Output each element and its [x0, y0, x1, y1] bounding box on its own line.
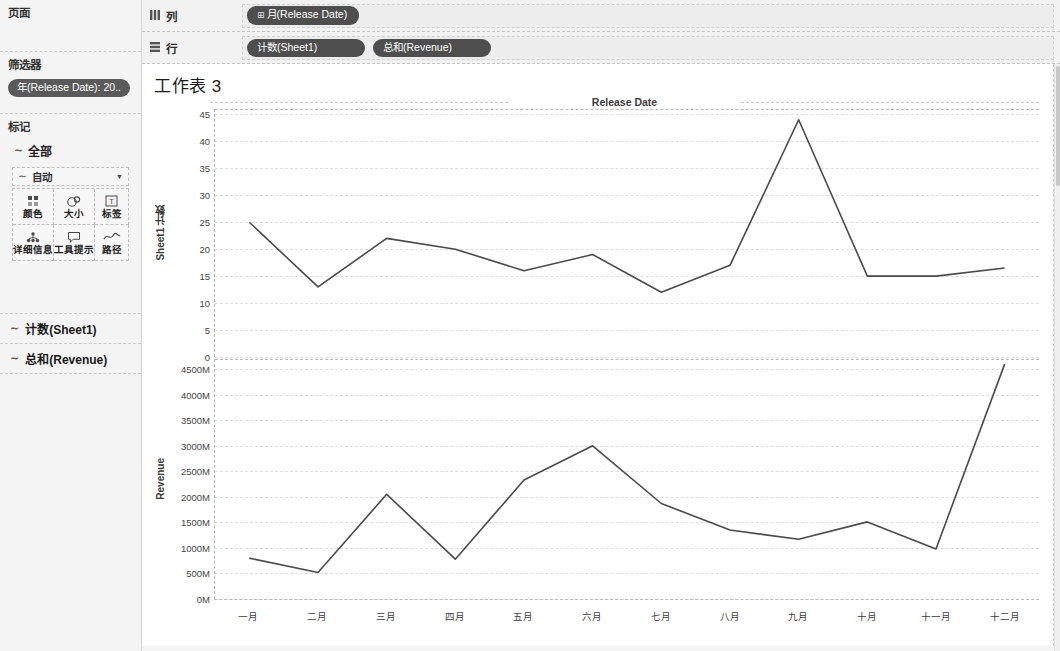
mark-type-dropdown[interactable]: ∼ 自动 ▼: [12, 167, 129, 186]
y-axis-title-count: Sheet1 计数: [152, 109, 168, 357]
line-series[interactable]: [215, 359, 1039, 599]
pages-title: 页面: [8, 6, 133, 21]
y-tick-label: 30: [199, 190, 210, 201]
y-tick-label: 2000M: [181, 491, 210, 502]
y-tick-label: 20: [199, 244, 210, 255]
marks-all-row[interactable]: ∼ 全部: [8, 135, 133, 165]
marks-tooltip-button[interactable]: 工具提示: [54, 225, 95, 261]
rows-shelf-row: 行 计数(Sheet1) 总和(Revenue): [142, 32, 1060, 64]
left-panel: 页面 筛选器 年(Release Date): 20.. 标记 ∼ 全部 ∼ 自…: [0, 0, 142, 651]
marks-label-button[interactable]: T 标签: [95, 189, 129, 225]
marks-path-label: 路径: [102, 245, 122, 255]
tooltip-bubble-icon: [67, 230, 81, 244]
pill-label: 计数(Sheet1): [257, 41, 317, 53]
line-mark-icon: ∼: [18, 171, 27, 182]
shelves-area: 列 ⊞月(Release Date) 行 计数(Sheet1) 总和(R: [142, 0, 1060, 64]
measure-card-count-sheet1[interactable]: ∼ 计数(Sheet1): [0, 313, 141, 344]
text-label-icon: T: [105, 194, 118, 208]
marks-title: 标记: [8, 120, 133, 135]
y-tick-label: 45: [199, 109, 210, 120]
tableau-worksheet-window: 页面 筛选器 年(Release Date): 20.. 标记 ∼ 全部 ∼ 自…: [0, 0, 1060, 651]
chart-title: Release Date: [210, 95, 1039, 109]
pill-count-sheet1[interactable]: 计数(Sheet1): [247, 39, 365, 57]
measure-card-sum-revenue[interactable]: ∼ 总和(Revenue): [0, 344, 141, 374]
pane-count-sheet1: Sheet1 计数 051015202530354045: [152, 109, 1039, 357]
x-tick-label[interactable]: 三月: [376, 609, 396, 623]
plot-canvas-revenue[interactable]: [214, 359, 1039, 599]
x-tick-label[interactable]: 十一月: [921, 609, 951, 623]
y-tick-label: 0M: [197, 594, 210, 605]
y-tick-label: 4500M: [181, 364, 210, 375]
y-tick-label: 10: [199, 298, 210, 309]
y-tick-label: 15: [199, 271, 210, 282]
gridline: [215, 357, 1039, 358]
rows-shelf-label-group: 行: [150, 40, 242, 56]
rows-shelf-label: 行: [166, 40, 177, 56]
marks-color-label: 颜色: [23, 209, 43, 219]
pill-sum-revenue[interactable]: 总和(Revenue): [373, 39, 491, 57]
y-tick-label: 3500M: [181, 415, 210, 426]
y-axis-ticks-revenue[interactable]: 0M500M1000M1500M2000M2500M3000M3500M4000…: [168, 359, 214, 599]
line-mark-icon: ∼: [10, 353, 19, 364]
line-mark-icon: ∼: [14, 145, 23, 156]
y-tick-label: 35: [199, 163, 210, 174]
y-tick-label: 2500M: [181, 466, 210, 477]
marks-path-button[interactable]: 路径: [95, 225, 129, 261]
x-tick-label[interactable]: 八月: [720, 609, 740, 623]
marks-color-button[interactable]: 颜色: [13, 189, 54, 225]
rows-grid-icon: [150, 42, 160, 54]
x-tick-label[interactable]: 二月: [307, 609, 327, 623]
y-axis-title-revenue: Revenue: [152, 359, 168, 599]
rows-shelf-dropzone[interactable]: 计数(Sheet1) 总和(Revenue): [242, 36, 1054, 60]
x-tick-label[interactable]: 十月: [857, 609, 877, 623]
plus-collapse-icon: ⊞: [257, 10, 265, 20]
measure-card-label: 计数(Sheet1): [25, 320, 96, 337]
marks-size-label: 大小: [64, 209, 84, 219]
vertical-scrollbar-thumb[interactable]: [1056, 66, 1060, 186]
path-line-icon: [103, 230, 121, 244]
pill-month-release-date[interactable]: ⊞月(Release Date): [247, 6, 359, 25]
columns-shelf-row: 列 ⊞月(Release Date): [142, 0, 1060, 32]
line-series[interactable]: [215, 109, 1039, 357]
x-tick-label[interactable]: 十二月: [990, 609, 1020, 623]
pane-sum-revenue: Revenue 0M500M1000M1500M2000M2500M3000M3…: [152, 359, 1039, 599]
vertical-scrollbar[interactable]: [1054, 64, 1060, 651]
x-tick-label[interactable]: 六月: [582, 609, 602, 623]
filters-title: 筛选器: [8, 58, 133, 73]
filter-pill-release-date-year[interactable]: 年(Release Date): 20..: [8, 79, 130, 97]
horizontal-scrollbar[interactable]: [142, 646, 1054, 651]
worksheet-title[interactable]: 工作表 3: [142, 64, 1053, 95]
x-tick-label[interactable]: 九月: [788, 609, 808, 623]
marks-all-label: 全部: [28, 142, 52, 159]
x-tick-label[interactable]: 一月: [238, 609, 258, 623]
marks-detail-button[interactable]: 详细信息: [13, 225, 54, 261]
columns-shelf-dropzone[interactable]: ⊞月(Release Date): [242, 4, 1054, 28]
detail-dots-icon: [25, 230, 41, 244]
columns-shelf-label-group: 列: [150, 8, 242, 24]
line-mark-icon: ∼: [10, 323, 19, 334]
y-tick-label: 3000M: [181, 440, 210, 451]
y-tick-label: 25: [199, 217, 210, 228]
y-tick-label: 4000M: [181, 389, 210, 400]
marks-size-button[interactable]: 大小: [54, 189, 95, 225]
measure-marks-cards: ∼ 计数(Sheet1) ∼ 总和(Revenue): [0, 313, 141, 374]
columns-shelf-label: 列: [166, 8, 177, 24]
measure-card-label: 总和(Revenue): [25, 350, 107, 367]
marks-tooltip-label: 工具提示: [54, 245, 94, 255]
x-tick-label[interactable]: 七月: [651, 609, 671, 623]
marks-buttons-grid: 颜色 大小 T 标签 详: [12, 188, 129, 261]
pages-shelf[interactable]: 页面: [0, 0, 141, 52]
x-axis-months[interactable]: 一月二月三月四月五月六月七月八月九月十月十一月十二月: [214, 599, 1039, 629]
x-tick-label[interactable]: 五月: [513, 609, 533, 623]
chevron-down-icon: ▼: [116, 173, 123, 180]
filters-shelf[interactable]: 筛选器 年(Release Date): 20..: [0, 52, 141, 114]
marks-card: 标记 ∼ 全部 ∼ 自动 ▼ 颜色: [0, 114, 141, 269]
marks-label-label: 标签: [102, 209, 122, 219]
size-circles-icon: [66, 194, 82, 208]
mark-type-label: 自动: [32, 169, 52, 184]
y-tick-label: 500M: [186, 568, 210, 579]
x-tick-label[interactable]: 四月: [445, 609, 465, 623]
y-axis-ticks-count[interactable]: 051015202530354045: [168, 109, 214, 357]
y-tick-label: 1000M: [181, 542, 210, 553]
plot-canvas-count[interactable]: [214, 109, 1039, 357]
